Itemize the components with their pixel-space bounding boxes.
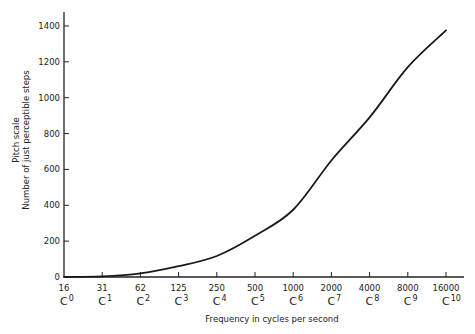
x-note-label: C6 <box>289 294 303 308</box>
x-tick-label: 16 <box>59 283 70 293</box>
y-axis-title: Pitch scale Number of just perceptible s… <box>11 70 31 210</box>
pitch-curve <box>64 30 446 277</box>
x-tick-label: 62 <box>135 283 146 293</box>
y-tick-label: 800 <box>44 129 60 139</box>
x-axis-title: Frequency in cycles per second <box>205 314 338 324</box>
x-note-label: C1 <box>98 294 112 308</box>
y-tick-label: 1000 <box>38 93 60 103</box>
x-note-label: C10 <box>442 294 461 308</box>
x-note-label: C3 <box>175 294 189 308</box>
x-tick-label: 1000 <box>282 283 304 293</box>
x-tick-label: 500 <box>247 283 263 293</box>
x-tick-label: 8000 <box>397 283 419 293</box>
y-axis-title-line2: Number of just perceptible steps <box>21 70 31 210</box>
y-tick-label: 400 <box>44 200 60 210</box>
x-tick-label: 16000 <box>432 283 459 293</box>
x-tick-label: 250 <box>209 283 225 293</box>
x-note-label: C7 <box>327 294 341 308</box>
x-tick-label: 2000 <box>321 283 343 293</box>
y-tick-label: 200 <box>44 236 60 246</box>
y-tick-label: 1400 <box>38 21 60 31</box>
x-note-label: C4 <box>213 294 227 308</box>
x-note-label: C5 <box>251 294 265 308</box>
x-note-label: C8 <box>366 294 380 308</box>
pitch-scale-chart: 0200400600800100012001400 16C031C162C212… <box>0 0 475 334</box>
x-note-label: C9 <box>404 294 418 308</box>
x-tick-label: 125 <box>170 283 186 293</box>
x-note-label: C0 <box>60 294 74 308</box>
x-tick-label: 4000 <box>359 283 381 293</box>
y-tick-label: 600 <box>44 164 60 174</box>
x-tick-label: 31 <box>97 283 108 293</box>
y-tick-label: 0 <box>55 272 60 282</box>
y-tick-label: 1200 <box>38 57 60 67</box>
x-note-label: C2 <box>136 294 150 308</box>
y-axis-title-line1: Pitch scale <box>11 117 21 162</box>
